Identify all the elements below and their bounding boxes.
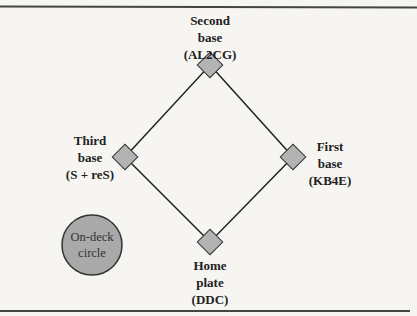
third-base-line2: base [60, 149, 120, 166]
third-base-line3: (S + reS) [60, 166, 120, 183]
home-plate-line1: Home [175, 257, 245, 274]
second-base-line1: Second [170, 12, 250, 29]
home-plate-line2: plate [175, 274, 245, 291]
first-base-label: First base (KB4E) [302, 138, 358, 189]
second-base-line2: base [170, 29, 250, 46]
first-base-line2: base [302, 155, 358, 172]
first-base-line3: (KB4E) [302, 172, 358, 189]
home-plate-label: Home plate (DDC) [175, 257, 245, 308]
basepaths [125, 65, 293, 242]
third-base-line1: Third [60, 132, 120, 149]
on-deck-circle-label: On-deck circle [62, 229, 122, 261]
third-base-label: Third base (S + reS) [60, 132, 120, 183]
on-deck-line1: On-deck [62, 229, 122, 245]
home-plate-line3: (DDC) [175, 291, 245, 308]
first-base-line1: First [302, 138, 358, 155]
second-base-label: Second base (AL2CG) [170, 12, 250, 63]
second-base-line3: (AL2CG) [170, 46, 250, 63]
on-deck-line2: circle [62, 245, 122, 261]
bottom-rule [0, 310, 410, 312]
